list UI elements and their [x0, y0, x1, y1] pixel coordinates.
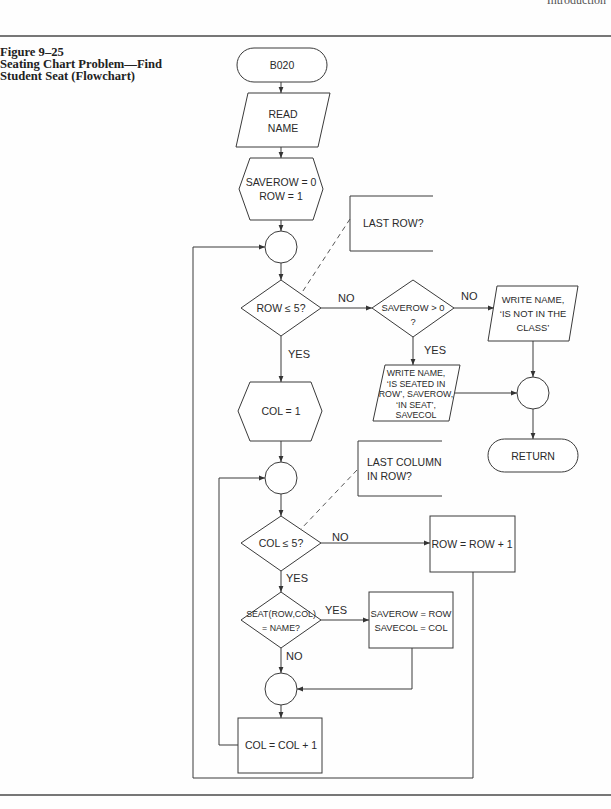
figure-caption-line-2: Student Seat (Flowchart) [0, 69, 135, 83]
node-text-line-2: = NAME? [262, 623, 300, 633]
node-init-row: SAVEROW = 0 ROW = 1 [239, 158, 323, 220]
annotation-dashed-leader [301, 219, 350, 294]
label-row-test-yes: YES [288, 348, 310, 360]
node-text-line-1: SAVEROW > 0 [381, 302, 444, 313]
node-text: ROW ≤ 5? [257, 302, 306, 314]
node-col-increment: COL = COL + 1 [238, 718, 322, 773]
node-text-line-2: NAME [268, 122, 298, 134]
label-col-test-no: NO [332, 531, 349, 543]
node-text-line-1: SAVEROW = 0 [246, 176, 317, 188]
label-seat-test-no: NO [286, 650, 303, 662]
annotation-text-line-2: IN ROW? [367, 470, 412, 482]
process-shape [369, 592, 453, 648]
figure-caption: Figure 9–25 Seating Chart Problem—Find S… [0, 45, 162, 83]
node-col-loop-connector [265, 462, 297, 494]
node-text-line-5: SAVECOL [396, 410, 437, 420]
node-exit-connector [517, 377, 549, 409]
label-col-test-yes: YES [286, 572, 308, 584]
node-row-loop-connector [265, 231, 297, 263]
input-output-shape [236, 93, 330, 147]
node-text-line-1: SEAT(ROW,COL) [246, 609, 316, 619]
annotation-text: LAST ROW? [363, 217, 424, 229]
label-row-test-no: NO [338, 292, 355, 304]
node-text-line-2: SAVECOL = COL [374, 622, 447, 633]
edge-row-loop-back [193, 247, 473, 778]
preparation-shape [239, 158, 323, 220]
node-col-test: COL ≤ 5? [241, 516, 321, 571]
annotation-dashed-leader [301, 470, 357, 529]
label-found-test-no: NO [461, 290, 478, 302]
node-text-line-4: ‘IN SEAT’, [396, 400, 436, 410]
node-text: B020 [270, 59, 295, 71]
label-seat-test-yes: YES [325, 604, 347, 616]
annotation-text-line-1: LAST COLUMN [367, 456, 442, 468]
label-found-test-yes: YES [424, 344, 446, 356]
node-text-line-3: CLASS’ [517, 322, 550, 333]
node-text: COL ≤ 5? [259, 537, 304, 549]
annotation-last-column: LAST COLUMN IN ROW? [301, 441, 442, 529]
running-header: Introduction [547, 0, 606, 7]
node-write-not-in-class: WRITE NAME, ‘IS NOT IN THE CLASS’ [488, 286, 578, 341]
textbook-page: Introduction Figure 9–25 Seating Chart P… [0, 0, 611, 809]
flowchart-figure: Introduction Figure 9–25 Seating Chart P… [0, 0, 611, 809]
node-text-line-2: ‘IS SEATED IN [387, 379, 446, 389]
annotation-last-row: LAST ROW? [301, 196, 433, 294]
node-merge-connector [265, 673, 297, 705]
node-text-line-1: WRITE NAME, [387, 368, 446, 378]
node-text-line-2: ‘IS NOT IN THE [500, 308, 566, 319]
node-seat-test: SEAT(ROW,COL) = NAME? [241, 592, 321, 648]
node-text: ROW = ROW + 1 [431, 538, 512, 550]
decision-shape [241, 592, 321, 648]
node-save-position: SAVEROW = ROW SAVECOL = COL [369, 592, 453, 648]
node-write-seated: WRITE NAME, ‘IS SEATED IN ROW’, SAVEROW,… [373, 365, 460, 421]
node-text-line-2: ROW = 1 [259, 190, 303, 202]
node-start-terminal: B020 [237, 48, 327, 82]
node-text-line-1: WRITE NAME, [502, 294, 565, 305]
node-text-line-1: READ [268, 108, 298, 120]
node-init-col: COL = 1 [238, 382, 322, 441]
node-text-line-1: SAVEROW = ROW [371, 608, 452, 619]
node-read-name: READ NAME [236, 93, 330, 147]
node-text: RETURN [511, 450, 555, 462]
edge-save-to-merge [297, 648, 412, 689]
node-return-terminal: RETURN [488, 439, 578, 472]
node-text: COL = COL + 1 [245, 739, 317, 751]
node-row-increment: ROW = ROW + 1 [430, 516, 515, 572]
node-row-test: ROW ≤ 5? [241, 280, 321, 336]
node-text-line-2: ? [410, 316, 415, 327]
node-text-line-3: ROW’, SAVEROW, [379, 389, 454, 399]
annotation-bracket [358, 441, 442, 496]
node-found-test: SAVEROW > 0 ? [372, 280, 454, 337]
node-text: COL = 1 [261, 405, 300, 417]
